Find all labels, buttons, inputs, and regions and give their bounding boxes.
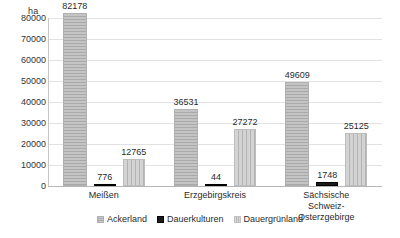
legend-item-dauerkulturen[interactable]: Dauerkulturen [157,214,224,224]
bar-dauergrnland-1[interactable] [234,129,256,186]
legend-swatch-icon [97,216,104,223]
legend-item-ackerland[interactable]: Ackerland [97,214,147,224]
plot-area: 821787761276536531442727249609174825125 [48,18,382,186]
bar-value-label: 82178 [62,1,87,11]
bar-value-label: 44 [211,172,221,182]
x-axis-category-label: Meißen [89,190,119,201]
y-axis-tick-label: 20000 [2,139,46,149]
bar-value-label: 1748 [317,170,337,180]
y-axis-line [48,18,49,187]
bar-ackerland-1[interactable] [174,109,198,186]
bar-group [48,18,159,186]
y-axis-tick-labels: 8000070000600005000040000300002000010000… [0,0,46,238]
bar-value-label: 776 [97,172,112,182]
bar-ackerland-0[interactable] [63,13,87,186]
bar-value-label: 27272 [232,117,257,127]
y-axis-tick-label: 30000 [2,118,46,128]
legend-label: Dauerkulturen [167,214,224,224]
y-axis-tick-label: 70000 [2,34,46,44]
y-axis-tick-label: 80000 [2,13,46,23]
x-axis-category-label: Sächsische Schweiz- Osterzgebirge [289,190,363,223]
bar-dauergrnland-0[interactable] [123,159,145,186]
bar-value-label: 49609 [285,70,310,80]
bar-value-label: 36531 [173,97,198,107]
bar-ackerland-2[interactable] [285,82,309,186]
legend-swatch-icon [234,216,241,223]
y-axis-tick-label: 10000 [2,160,46,170]
bar-group [271,18,382,186]
bar-value-label: 12765 [121,147,146,157]
y-axis-tick-label: 0 [2,181,46,191]
bar-chart: ha 8000070000600005000040000300002000010… [0,0,400,238]
y-axis-tick-label: 50000 [2,76,46,86]
bar-dauergrnland-2[interactable] [345,133,367,186]
x-axis-category-label: Erzgebirgskreis [184,190,246,201]
y-axis-tick-label: 60000 [2,55,46,65]
legend-label: Ackerland [107,214,147,224]
y-axis-tick-label: 40000 [2,97,46,107]
x-axis-line [48,186,382,187]
legend-swatch-icon [157,216,164,223]
bar-value-label: 25125 [344,121,369,131]
